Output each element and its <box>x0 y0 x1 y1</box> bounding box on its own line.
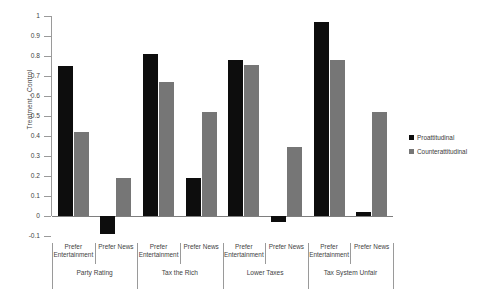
bar-chart: Treatment - Control 10.90.80.70.60.50.40… <box>0 0 487 297</box>
legend-label: Counterattitudinal <box>417 148 467 155</box>
bar-proattitudinal <box>314 22 329 216</box>
y-tick-label: 0.8 <box>0 52 40 59</box>
bar-counterattitudinal <box>372 112 387 216</box>
legend-swatch-icon <box>409 149 414 154</box>
bar-counterattitudinal <box>202 112 217 216</box>
legend-swatch-icon <box>409 135 414 140</box>
x-group-label: Party Rating <box>52 269 137 276</box>
y-tick-mark <box>44 176 51 177</box>
y-tick-mark <box>44 136 51 137</box>
plot-area <box>52 16 393 240</box>
y-tick-mark <box>44 36 51 37</box>
x-axis-separator <box>52 243 53 289</box>
y-tick-label: 0.7 <box>0 72 40 79</box>
bar-proattitudinal <box>143 54 158 216</box>
y-tick-label: 0.9 <box>0 32 40 39</box>
chart-legend: Proattitudinal Counterattitudinal <box>409 134 467 162</box>
x-sub-label: Prefer News <box>95 243 138 251</box>
bar-proattitudinal <box>271 216 286 222</box>
y-tick-mark <box>44 236 51 237</box>
y-tick-mark <box>44 56 51 57</box>
x-group-label: Tax System Unfair <box>308 269 393 276</box>
y-tick-label: 1 <box>0 12 40 19</box>
bar-proattitudinal <box>100 216 115 234</box>
bar-counterattitudinal <box>244 65 259 216</box>
x-axis-separator <box>393 243 394 289</box>
y-tick-label: 0.4 <box>0 132 40 139</box>
bar-proattitudinal <box>356 212 371 216</box>
y-tick-mark <box>44 156 51 157</box>
y-tick-label: 0 <box>0 212 40 219</box>
x-sub-label: Prefer News <box>350 243 393 251</box>
legend-item-counterattitudinal: Counterattitudinal <box>409 148 467 155</box>
y-tick-label: 0.2 <box>0 172 40 179</box>
x-group-label: Lower Taxes <box>223 269 308 276</box>
x-group-label: Tax the Rich <box>137 269 222 276</box>
y-tick-label: 0.6 <box>0 92 40 99</box>
y-tick-label: 0.1 <box>0 192 40 199</box>
x-sub-label: Prefer Entertainment <box>308 243 351 259</box>
bar-counterattitudinal <box>287 147 302 216</box>
bar-proattitudinal <box>228 60 243 216</box>
bar-counterattitudinal <box>116 178 131 216</box>
x-sub-label: Prefer Entertainment <box>52 243 95 259</box>
bar-counterattitudinal <box>74 132 89 216</box>
y-tick-mark <box>44 196 51 197</box>
x-sub-label: Prefer News <box>180 243 223 251</box>
bar-counterattitudinal <box>330 60 345 216</box>
y-tick-mark <box>44 96 51 97</box>
y-tick-label: 0.3 <box>0 152 40 159</box>
legend-item-proattitudinal: Proattitudinal <box>409 134 467 141</box>
y-tick-mark <box>44 216 51 217</box>
bar-proattitudinal <box>186 178 201 216</box>
y-tick-mark <box>44 16 51 17</box>
x-sub-label: Prefer News <box>265 243 308 251</box>
x-sub-label: Prefer Entertainment <box>137 243 180 259</box>
y-tick-mark <box>44 116 51 117</box>
x-sub-label: Prefer Entertainment <box>223 243 266 259</box>
bar-counterattitudinal <box>159 82 174 216</box>
bar-proattitudinal <box>58 66 73 216</box>
y-tick-label: 0.5 <box>0 112 40 119</box>
y-tick-label: -0.1 <box>0 232 40 239</box>
legend-label: Proattitudinal <box>417 134 454 141</box>
y-tick-mark <box>44 76 51 77</box>
x-axis-labels: Prefer EntertainmentPrefer NewsParty Rat… <box>52 243 393 297</box>
